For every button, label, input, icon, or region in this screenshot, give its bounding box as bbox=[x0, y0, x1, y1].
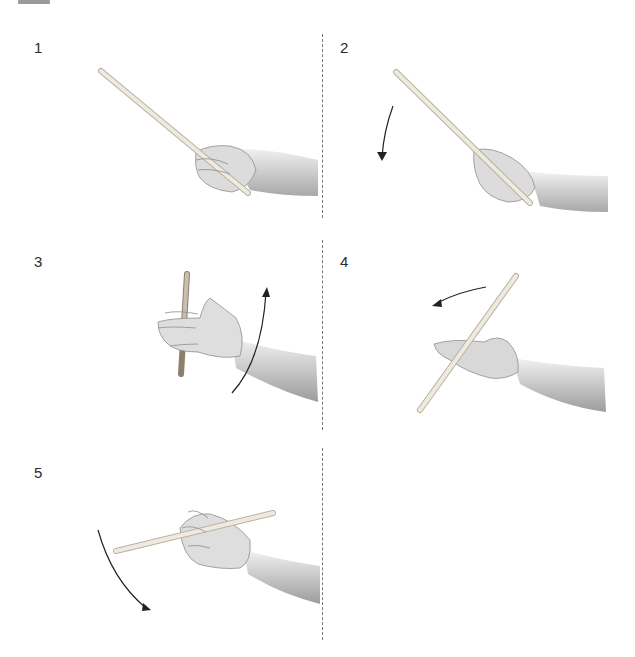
vertical-divider-bottom bbox=[322, 448, 323, 640]
arrow-left-icon bbox=[432, 287, 486, 307]
step-5-illustration bbox=[0, 0, 320, 657]
hand-horizontal-stick-icon bbox=[0, 0, 320, 657]
